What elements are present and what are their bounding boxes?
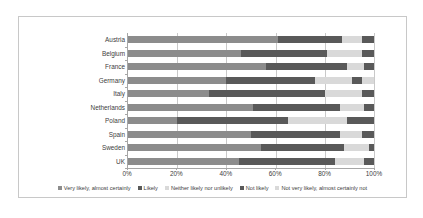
bar-segment[interactable] xyxy=(278,36,342,43)
y-axis-label-france: France xyxy=(21,63,125,70)
bar-segment[interactable] xyxy=(128,90,209,97)
legend-item[interactable]: Not very likely, almost certainly not xyxy=(275,185,367,191)
bar-segment[interactable] xyxy=(128,117,177,124)
bar-segment[interactable] xyxy=(266,63,347,70)
bar-row[interactable] xyxy=(128,104,374,111)
bar-segment[interactable] xyxy=(362,131,374,138)
bar-row[interactable] xyxy=(128,144,374,151)
legend-label: Not likely xyxy=(246,185,269,191)
bar-row[interactable] xyxy=(128,117,374,124)
legend-label: Very likely, almost certainly xyxy=(64,185,131,191)
chart-frame: AustriaBelgiumFranceGermanyItalyNetherla… xyxy=(18,16,407,198)
bar-row[interactable] xyxy=(128,63,374,70)
bar-segment[interactable] xyxy=(209,90,325,97)
legend-item[interactable]: Likely xyxy=(138,185,158,191)
bar-segment[interactable] xyxy=(128,77,226,84)
y-axis-label-netherlands: Netherlands xyxy=(21,104,125,111)
bar-segment[interactable] xyxy=(128,36,278,43)
y-axis-label-poland: Poland xyxy=(21,117,125,124)
bar-segment[interactable] xyxy=(288,117,347,124)
chart-legend: Very likely, almost certainlyLikelyNeith… xyxy=(19,185,406,191)
bar-segment[interactable] xyxy=(128,144,261,151)
bar-segment[interactable] xyxy=(347,117,374,124)
bar-segment[interactable] xyxy=(340,131,362,138)
bar-segment[interactable] xyxy=(325,90,362,97)
bar-segment[interactable] xyxy=(177,117,288,124)
x-axis-label-60: 60% xyxy=(269,170,282,177)
bar-segment[interactable] xyxy=(340,104,365,111)
bar-segment[interactable] xyxy=(335,158,365,165)
chart-plot-wrapper: AustriaBelgiumFranceGermanyItalyNetherla… xyxy=(19,17,406,197)
gridline-100 xyxy=(374,33,375,168)
x-axis-tick xyxy=(127,168,128,170)
bar-segment[interactable] xyxy=(315,77,352,84)
bar-segment[interactable] xyxy=(352,77,362,84)
bar-segment[interactable] xyxy=(327,50,361,57)
bar-segment[interactable] xyxy=(241,50,327,57)
bar-segment[interactable] xyxy=(362,50,374,57)
y-axis-label-uk: UK xyxy=(21,158,125,165)
bar-segment[interactable] xyxy=(253,104,339,111)
bar-row[interactable] xyxy=(128,90,374,97)
bar-segment[interactable] xyxy=(239,158,335,165)
x-axis-label-80: 80% xyxy=(318,170,331,177)
x-axis-tick xyxy=(226,168,227,170)
bar-segment[interactable] xyxy=(362,36,374,43)
x-axis-label-20: 20% xyxy=(170,170,183,177)
bar-row[interactable] xyxy=(128,158,374,165)
legend-swatch-icon xyxy=(165,186,169,190)
bar-segment[interactable] xyxy=(362,90,374,97)
x-axis-tick xyxy=(325,168,326,170)
x-axis-tick xyxy=(275,168,276,170)
bar-row[interactable] xyxy=(128,50,374,57)
x-axis-line xyxy=(128,168,374,169)
legend-label: Neither likely nor unlikely xyxy=(171,185,233,191)
bar-segment[interactable] xyxy=(128,131,251,138)
x-axis-tick xyxy=(176,168,177,170)
bar-segment[interactable] xyxy=(226,77,315,84)
y-axis-label-italy: Italy xyxy=(21,90,125,97)
y-axis-label-belgium: Belgium xyxy=(21,50,125,57)
bar-segment[interactable] xyxy=(344,144,369,151)
bar-segment[interactable] xyxy=(364,63,374,70)
legend-swatch-icon xyxy=(138,186,142,190)
legend-item[interactable]: Neither likely nor unlikely xyxy=(165,185,233,191)
bar-segment[interactable] xyxy=(364,104,374,111)
legend-swatch-icon xyxy=(240,186,244,190)
bar-row[interactable] xyxy=(128,77,374,84)
bar-segment[interactable] xyxy=(128,50,241,57)
bar-segment[interactable] xyxy=(128,158,239,165)
bar-segment[interactable] xyxy=(342,36,362,43)
legend-item[interactable]: Not likely xyxy=(240,185,269,191)
x-axis-label-0: 0% xyxy=(122,170,131,177)
bar-row[interactable] xyxy=(128,36,374,43)
legend-label: Likely xyxy=(144,185,158,191)
bar-segment[interactable] xyxy=(128,63,266,70)
bar-segment[interactable] xyxy=(364,158,374,165)
bar-segment[interactable] xyxy=(251,131,340,138)
legend-swatch-icon xyxy=(58,186,62,190)
bar-segment[interactable] xyxy=(362,77,374,84)
x-axis-tick xyxy=(374,168,375,170)
y-axis-category-labels: AustriaBelgiumFranceGermanyItalyNetherla… xyxy=(19,33,125,168)
plot-area xyxy=(127,33,374,168)
legend-item[interactable]: Very likely, almost certainly xyxy=(58,185,131,191)
bar-segment[interactable] xyxy=(347,63,364,70)
bar-segment[interactable] xyxy=(369,144,374,151)
bar-segment[interactable] xyxy=(261,144,345,151)
x-axis-tick-labels: 0%20%40%60%80%100% xyxy=(127,170,374,182)
x-axis-label-100: 100% xyxy=(366,170,382,177)
legend-swatch-icon xyxy=(275,186,279,190)
x-axis-label-40: 40% xyxy=(219,170,232,177)
bar-row[interactable] xyxy=(128,131,374,138)
y-axis-label-spain: Spain xyxy=(21,131,125,138)
y-axis-label-sweden: Sweden xyxy=(21,144,125,151)
bar-segment[interactable] xyxy=(128,104,253,111)
legend-label: Not very likely, almost certainly not xyxy=(281,185,367,191)
y-axis-label-germany: Germany xyxy=(21,77,125,84)
y-axis-label-austria: Austria xyxy=(21,36,125,43)
